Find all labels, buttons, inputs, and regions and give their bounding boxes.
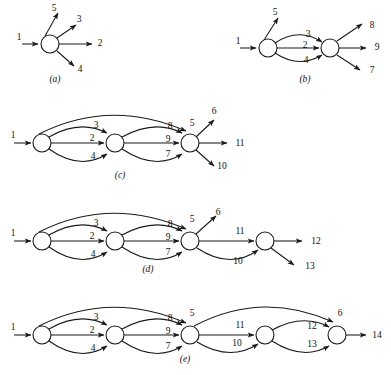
graph-node	[181, 232, 199, 250]
edge-parallel-4	[49, 247, 107, 259]
arc-label-6: 6	[212, 106, 217, 116]
graph-node	[33, 326, 51, 344]
panel-c	[14, 115, 227, 166]
graph-node	[106, 134, 124, 152]
label-layer: 1532415324897132489756111013248975611101…	[11, 3, 382, 365]
edge-parallel-8	[122, 225, 182, 235]
arc-label-5: 5	[190, 214, 195, 224]
arc-label-9: 9	[166, 134, 171, 144]
arc-label-7: 7	[370, 65, 375, 75]
edge-out-7	[337, 55, 360, 70]
edge-parallel-7	[122, 341, 182, 353]
arc-label-9: 9	[166, 326, 171, 336]
cap-b: (b)	[299, 74, 310, 85]
cap-c: (c)	[115, 170, 126, 181]
graph-node	[33, 134, 51, 152]
diagram-svg: 1532415324897132489756111013248975611101…	[0, 0, 391, 375]
arc-label-8: 8	[168, 219, 173, 229]
edge-out-13	[271, 248, 294, 265]
arc-label-6: 6	[216, 207, 221, 217]
arc-label-4: 4	[78, 64, 83, 74]
edge-parallel-10	[197, 248, 258, 260]
arc-label-1: 1	[236, 36, 241, 46]
arc-label-10: 10	[233, 256, 243, 266]
arc-label-13: 13	[305, 261, 315, 271]
arc-label-8: 8	[168, 313, 173, 323]
edge-parallel-7	[122, 149, 182, 161]
arc-label-5: 5	[52, 3, 57, 13]
arc-label-7: 7	[166, 149, 171, 159]
graph-node	[33, 232, 51, 250]
arc-label-2: 2	[90, 325, 95, 335]
graph-node	[256, 326, 274, 344]
graph-node	[181, 134, 199, 152]
edge-parallel-8	[122, 319, 182, 329]
arc-label-3: 3	[94, 218, 99, 228]
graph-node	[328, 326, 346, 344]
edge-out-10	[196, 150, 214, 166]
edge-parallel-8	[122, 127, 182, 137]
arc-label-8: 8	[168, 121, 173, 131]
arc-label-9: 9	[166, 232, 171, 242]
arc-label-2: 2	[98, 38, 103, 48]
arc-label-14: 14	[372, 330, 382, 340]
arc-label-3: 3	[77, 14, 82, 24]
arc-label-1: 1	[17, 32, 22, 42]
arc-label-11: 11	[235, 320, 244, 330]
arc-label-3: 3	[306, 29, 311, 39]
cap-d: (d)	[142, 264, 153, 275]
arc-label-12: 12	[311, 236, 321, 246]
arc-label-11: 11	[235, 138, 244, 148]
arc-label-4: 4	[91, 343, 96, 353]
graph-node	[259, 39, 277, 57]
arc-label-11: 11	[235, 226, 244, 236]
edge-out-4	[57, 51, 74, 66]
graph-node	[256, 232, 274, 250]
edge-parallel-4	[275, 53, 322, 62]
panel-d	[14, 213, 302, 265]
arc-label-8: 8	[370, 20, 375, 30]
arc-label-5: 5	[190, 308, 195, 318]
arc-label-3: 3	[94, 120, 99, 130]
arc-label-4: 4	[304, 55, 309, 65]
arc-label-10: 10	[232, 338, 242, 348]
edge-parallel-10	[197, 342, 258, 353]
graph-node	[181, 326, 199, 344]
arc-label-1: 1	[11, 322, 16, 332]
arc-label-2: 2	[90, 231, 95, 241]
cap-e: (e)	[180, 354, 191, 365]
edge-out-6	[196, 216, 216, 234]
arc-label-1: 1	[11, 228, 16, 238]
arc-label-4: 4	[91, 151, 96, 161]
arc-label-9: 9	[375, 42, 380, 52]
edge-parallel-4	[49, 149, 107, 161]
arc-label-2: 2	[90, 133, 95, 143]
arc-label-5: 5	[190, 118, 195, 128]
edge-out-5	[264, 18, 278, 40]
graph-node	[106, 232, 124, 250]
cap-a: (a)	[49, 74, 60, 85]
arc-label-3: 3	[94, 312, 99, 322]
arc-label-1: 1	[11, 130, 16, 140]
graph-node	[106, 326, 124, 344]
arc-label-4: 4	[91, 249, 96, 259]
edge-parallel-7	[122, 247, 182, 259]
edge-parallel-13	[272, 341, 329, 352]
arc-label-6: 6	[338, 308, 343, 318]
arc-label-7: 7	[166, 341, 171, 351]
edge-parallel-4	[49, 341, 107, 353]
panel-a	[22, 13, 92, 66]
arc-label-10: 10	[217, 161, 227, 171]
arc-label-12: 12	[307, 321, 317, 331]
arc-label-2: 2	[303, 40, 308, 50]
graph-node	[321, 39, 339, 57]
graph-node	[41, 35, 59, 53]
edge-parallel-12	[272, 321, 329, 330]
arc-label-13: 13	[307, 339, 317, 349]
edge-parallel-3	[275, 35, 322, 43]
edge-out-8	[337, 24, 362, 41]
edge-out-6	[196, 120, 214, 137]
edge-out-3	[57, 25, 76, 38]
figure-container: 1532415324897132489756111013248975611101…	[0, 0, 391, 375]
arc-label-7: 7	[166, 247, 171, 257]
